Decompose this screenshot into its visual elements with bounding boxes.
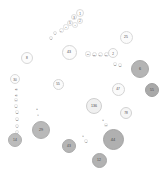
bubble-node[interactable]: 44 — [103, 129, 124, 150]
bubble-label: 16 — [87, 53, 90, 55]
bubble-label: 55 — [150, 89, 154, 92]
bubble-node[interactable]: 30 — [10, 74, 20, 84]
bubble-label: 9 — [16, 125, 17, 127]
bubble-node[interactable]: 2 — [108, 48, 118, 58]
bubble-label: 30 — [13, 78, 16, 81]
bubble-label: 1 — [79, 12, 81, 15]
bubble-node[interactable]: 8 — [49, 36, 54, 41]
bubble-node[interactable]: 4 — [72, 22, 78, 28]
bubble-node[interactable]: 6 — [131, 60, 149, 78]
bubble-label: 5 — [69, 22, 70, 25]
bubble-label: 12 — [97, 159, 101, 163]
bubble-node[interactable]: 5 — [36, 108, 39, 111]
bubble-node[interactable]: 47 — [112, 83, 125, 96]
bubble-label: 6 — [139, 68, 141, 72]
bubble-node[interactable]: 41 — [84, 139, 88, 143]
bubble-label: 8 — [26, 57, 28, 60]
bubble-label: 47 — [116, 88, 120, 91]
bubble-node[interactable]: 1 — [82, 135, 85, 138]
bubble-label: 136 — [91, 105, 97, 109]
bubble-node[interactable]: 12 — [92, 52, 97, 57]
bubble-node[interactable]: 136 — [86, 98, 102, 114]
bubble-node[interactable]: 29 — [32, 121, 50, 139]
bubble-node[interactable]: 55 — [145, 83, 159, 97]
bubble-node[interactable]: 19 — [14, 98, 17, 101]
bubble-node[interactable]: 13 — [118, 63, 122, 67]
bubble-label: 12 — [93, 53, 96, 55]
bubble-node[interactable]: 12 — [92, 153, 107, 168]
bubble-label: 6 — [60, 29, 61, 31]
bubble-node[interactable]: 23 — [15, 88, 18, 91]
bubble-node[interactable]: 6 — [59, 28, 64, 33]
bubble-node[interactable]: 4 — [37, 114, 40, 117]
bubble-label: 1 — [83, 136, 84, 138]
bubble-node[interactable]: 13 — [15, 117, 19, 121]
bubble-node[interactable]: 78 — [120, 107, 132, 119]
bubble-label: 11 — [114, 63, 116, 65]
bubble-label: 7 — [65, 26, 66, 28]
bubble-label: 25 — [124, 36, 128, 39]
bubble-node[interactable]: 43 — [62, 45, 77, 60]
bubble-label: 21 — [15, 95, 17, 97]
bubble-label: 13 — [119, 64, 121, 66]
bubble-node[interactable]: 17 — [14, 104, 17, 107]
bubble-node[interactable]: 43 — [62, 139, 76, 153]
bubble-label: 5 — [37, 109, 38, 111]
bubble-label: 4 — [74, 24, 75, 27]
bubble-label: 2 — [112, 52, 114, 55]
bubble-node[interactable]: 11 — [104, 123, 107, 126]
bubble-label: 44 — [111, 138, 115, 142]
bubble-label: 17 — [15, 106, 17, 108]
bubble-label: 15 — [16, 111, 18, 113]
bubble-label: 55 — [56, 83, 59, 86]
bubble-node[interactable]: 8 — [21, 52, 33, 64]
bubble-node[interactable]: 1 — [76, 9, 84, 17]
bubble-node[interactable]: 15 — [15, 110, 19, 114]
bubble-label: 8 — [50, 37, 51, 39]
bubble-label: 4 — [38, 115, 39, 117]
bubble-label: 3 — [103, 120, 104, 122]
bubble-label: 29 — [39, 129, 43, 133]
bubble-label: 11 — [105, 125, 107, 127]
bubble-node[interactable]: 25 — [120, 31, 133, 44]
bubble-node[interactable]: 9 — [53, 31, 58, 36]
bubble-node[interactable]: 7 — [63, 24, 68, 29]
bubble-label: 78 — [124, 112, 128, 115]
bubble-node[interactable]: 9 — [15, 124, 19, 128]
bubble-node[interactable]: 2 — [77, 18, 83, 24]
bubble-label: 43 — [67, 51, 71, 55]
bubble-label: 14 — [99, 53, 102, 55]
bubble-label: 43 — [67, 145, 71, 148]
bubble-node[interactable]: 55 — [53, 79, 64, 90]
bubble-label: 14 — [13, 139, 17, 142]
bubble-label: 17 — [105, 53, 108, 55]
bubble-node[interactable]: 11 — [113, 62, 117, 66]
bubble-label: 23 — [15, 89, 17, 91]
bubble-node[interactable]: 14 — [98, 52, 103, 57]
bubble-label: 19 — [15, 100, 17, 102]
bubble-label: 41 — [85, 140, 87, 142]
bubble-node[interactable]: 21 — [15, 94, 18, 97]
bubble-label: 9 — [54, 32, 55, 34]
bubble-chart: 1325476982543161214172811136305547552321… — [0, 0, 165, 175]
bubble-node[interactable]: 14 — [8, 133, 22, 147]
bubble-label: 13 — [16, 119, 18, 121]
bubble-label: 3 — [73, 16, 75, 19]
bubble-node[interactable]: 3 — [102, 119, 105, 122]
bubble-node[interactable]: 16 — [85, 51, 90, 56]
bubble-label: 2 — [79, 20, 80, 23]
